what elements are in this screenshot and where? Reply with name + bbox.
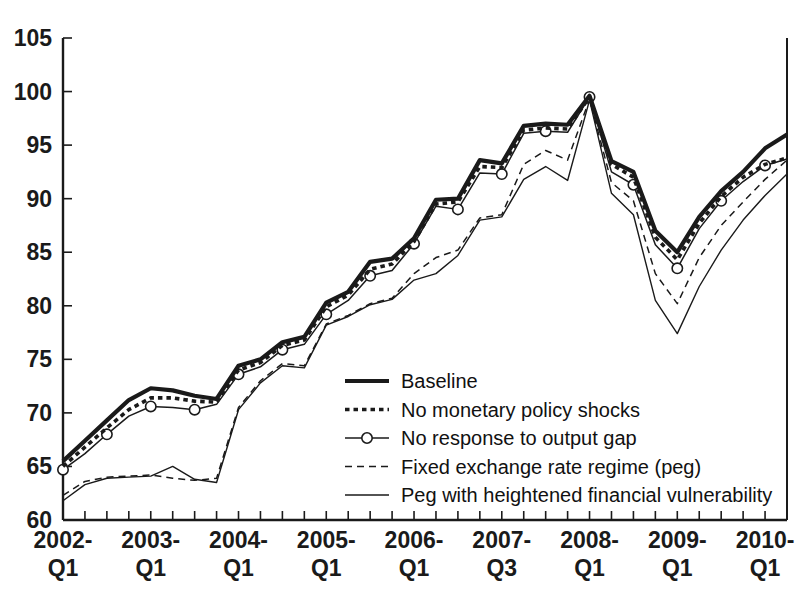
- x-tick-label-year: 2009-: [648, 527, 707, 553]
- legend-label: Baseline: [401, 370, 478, 392]
- y-tick-label: 85: [26, 239, 52, 265]
- series-marker: [497, 169, 507, 179]
- y-tick-label: 65: [26, 453, 52, 479]
- y-tick-label: 70: [26, 400, 52, 426]
- line-chart: 6065707580859095100105 2002-Q12003-Q1200…: [0, 0, 811, 605]
- x-tick-label-year: 2006-: [385, 527, 444, 553]
- x-tick-label-quarter: Q1: [750, 555, 781, 581]
- series-marker: [672, 263, 682, 273]
- chart-background: [0, 0, 811, 605]
- legend-marker-icon: [362, 433, 372, 443]
- series-marker: [453, 204, 463, 214]
- y-tick-label: 75: [26, 346, 52, 372]
- legend-label: No response to output gap: [401, 427, 637, 449]
- x-tick-label-quarter: Q1: [135, 555, 166, 581]
- legend-label: No monetary policy shocks: [401, 399, 640, 421]
- series-marker: [146, 401, 156, 411]
- y-tick-label: 90: [26, 186, 52, 212]
- x-tick-label-year: 2010-: [736, 527, 795, 553]
- x-tick-label-quarter: Q1: [662, 555, 693, 581]
- legend-label: Fixed exchange rate regime (peg): [401, 456, 701, 478]
- x-tick-label-year: 2004-: [209, 527, 268, 553]
- x-tick-label-year: 2008-: [560, 527, 619, 553]
- x-tick-label-quarter: Q1: [399, 555, 430, 581]
- legend-label: Peg with heightened financial vulnerabil…: [401, 484, 772, 506]
- x-tick-label-quarter: Q1: [48, 555, 79, 581]
- y-tick-label: 105: [14, 25, 53, 51]
- y-tick-label: 95: [26, 132, 52, 158]
- x-tick-label-year: 2003-: [121, 527, 180, 553]
- y-tick-label: 100: [14, 79, 52, 105]
- x-tick-label-quarter: Q1: [311, 555, 342, 581]
- chart-figure: 6065707580859095100105 2002-Q12003-Q1200…: [0, 0, 811, 605]
- legend-item-5[interactable]: Peg with heightened financial vulnerabil…: [345, 484, 772, 506]
- x-tick-label-year: 2007-: [472, 527, 531, 553]
- y-tick-label: 80: [26, 293, 52, 319]
- x-tick-label-year: 2005-: [297, 527, 356, 553]
- x-tick-label-quarter: Q1: [223, 555, 254, 581]
- x-tick-label-quarter: Q1: [574, 555, 605, 581]
- x-tick-label-quarter: Q3: [486, 555, 517, 581]
- series-marker: [189, 404, 199, 414]
- x-tick-label-year: 2002-: [34, 527, 93, 553]
